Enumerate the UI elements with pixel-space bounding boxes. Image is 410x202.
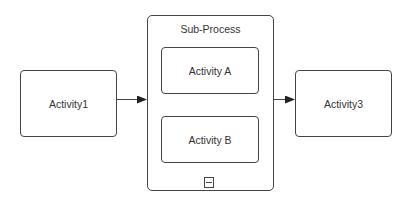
activity3-task[interactable]: Activity3 xyxy=(295,70,392,137)
collapse-marker-icon[interactable] xyxy=(204,177,214,188)
subprocess-container[interactable]: Sub-Process xyxy=(147,15,274,191)
subprocess-title: Sub-Process xyxy=(148,23,273,35)
activity1-task[interactable]: Activity1 xyxy=(20,70,117,137)
activity3-label: Activity3 xyxy=(324,98,363,110)
activity-b-label: Activity B xyxy=(188,134,231,146)
activity-b-task[interactable]: Activity B xyxy=(161,116,259,163)
activity-a-label: Activity A xyxy=(189,65,232,77)
activity-a-task[interactable]: Activity A xyxy=(161,47,259,94)
activity1-label: Activity1 xyxy=(49,98,88,110)
